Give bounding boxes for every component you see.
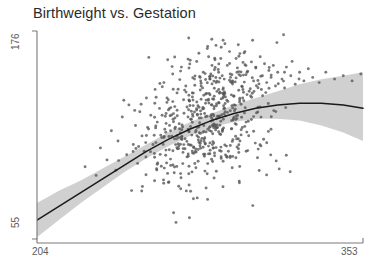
scatter-point — [158, 82, 161, 85]
scatter-point — [311, 76, 314, 79]
scatter-point — [180, 128, 183, 131]
scatter-point — [110, 129, 113, 132]
scatter-point — [132, 143, 135, 146]
scatter-point — [210, 38, 213, 41]
scatter-plot — [0, 0, 374, 268]
scatter-point — [261, 94, 264, 97]
scatter-point — [268, 87, 271, 90]
scatter-point — [220, 97, 223, 100]
scatter-point — [210, 130, 213, 133]
scatter-point — [134, 147, 137, 150]
scatter-point — [209, 77, 212, 80]
scatter-point — [211, 160, 214, 163]
scatter-point — [117, 159, 120, 162]
scatter-point — [223, 42, 226, 45]
scatter-point — [274, 85, 277, 88]
scatter-point — [154, 141, 157, 144]
scatter-point — [179, 70, 182, 73]
scatter-points-group — [84, 33, 363, 224]
scatter-point — [222, 185, 225, 188]
scatter-point — [187, 172, 190, 175]
scatter-point — [258, 169, 261, 172]
scatter-point — [285, 66, 288, 69]
scatter-point — [194, 166, 197, 169]
scatter-point — [272, 64, 275, 67]
scatter-point — [159, 153, 162, 156]
scatter-point — [231, 106, 234, 109]
scatter-point — [246, 149, 249, 152]
scatter-point — [125, 153, 128, 156]
scatter-point — [250, 118, 253, 121]
scatter-point — [237, 147, 240, 150]
scatter-point — [203, 138, 206, 141]
scatter-point — [199, 89, 202, 92]
scatter-point — [133, 109, 136, 112]
scatter-point — [160, 165, 163, 168]
scatter-point — [198, 117, 201, 120]
scatter-point — [162, 178, 165, 181]
scatter-point — [215, 102, 218, 105]
scatter-point — [168, 124, 171, 127]
scatter-point — [175, 146, 178, 149]
scatter-point — [238, 165, 241, 168]
scatter-point — [194, 150, 197, 153]
scatter-point — [146, 126, 149, 129]
scatter-point — [205, 187, 208, 190]
scatter-point — [245, 131, 248, 134]
scatter-point — [240, 116, 243, 119]
scatter-point — [175, 137, 178, 140]
scatter-point — [187, 108, 190, 111]
scatter-point — [173, 56, 176, 59]
scatter-point — [270, 74, 273, 77]
scatter-point — [198, 121, 201, 124]
scatter-point — [132, 150, 135, 153]
scatter-point — [318, 81, 321, 84]
scatter-point — [190, 144, 193, 147]
scatter-point — [173, 171, 176, 174]
scatter-point — [212, 147, 215, 150]
scatter-point — [190, 118, 193, 121]
scatter-point — [164, 131, 167, 134]
scatter-point — [253, 90, 256, 93]
scatter-point — [181, 126, 184, 129]
scatter-point — [188, 216, 191, 219]
scatter-point — [229, 109, 232, 112]
scatter-point — [291, 60, 294, 63]
y-axis — [32, 31, 37, 239]
scatter-point — [147, 56, 150, 59]
scatter-point — [192, 99, 195, 102]
scatter-point — [140, 190, 143, 193]
scatter-point — [202, 146, 205, 149]
scatter-point — [217, 68, 220, 71]
scatter-point — [229, 73, 232, 76]
scatter-point — [165, 161, 168, 164]
scatter-point — [302, 79, 305, 82]
x-axis-tick-label-max: 353 — [341, 246, 358, 257]
scatter-point — [166, 58, 169, 61]
scatter-point — [234, 108, 237, 111]
scatter-point — [268, 66, 271, 69]
scatter-point — [164, 149, 167, 152]
scatter-point — [307, 67, 310, 70]
scatter-point — [163, 128, 166, 131]
scatter-point — [257, 148, 260, 151]
scatter-point — [176, 91, 179, 94]
scatter-point — [172, 211, 175, 214]
scatter-point — [285, 154, 288, 157]
scatter-point — [191, 76, 194, 79]
scatter-point — [189, 104, 192, 107]
scatter-point — [212, 142, 215, 145]
scatter-point — [209, 115, 212, 118]
scatter-point — [242, 99, 245, 102]
scatter-point — [134, 124, 137, 127]
scatter-point — [207, 55, 210, 58]
scatter-point — [168, 107, 171, 110]
scatter-point — [211, 64, 214, 67]
scatter-point — [196, 134, 199, 137]
scatter-point — [245, 73, 248, 76]
scatter-point — [226, 111, 229, 114]
scatter-point — [172, 88, 175, 91]
scatter-point — [194, 131, 197, 134]
y-axis-tick-label-max: 176 — [10, 33, 21, 50]
scatter-point — [180, 138, 183, 141]
